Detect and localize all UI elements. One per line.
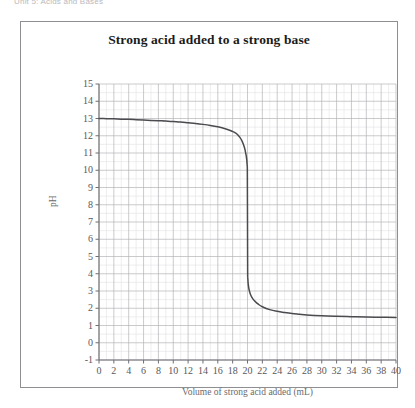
y-tick-label: 12 (67, 131, 93, 141)
y-tick-label: 13 (67, 114, 93, 124)
figure-frame: Strong acid added to a strong base -1012… (20, 21, 398, 388)
y-tick-label: 9 (67, 183, 93, 193)
y-tick-label: 15 (67, 79, 93, 89)
y-tick-label: 1 (67, 321, 93, 331)
axis-ticks (96, 84, 397, 364)
y-tick-label: 10 (67, 165, 93, 175)
page-header-fragment: Unit 5: Acids and Bases (14, 0, 274, 8)
y-axis-title: pH (48, 195, 58, 207)
chart-title: Strong acid added to a strong base (21, 32, 397, 48)
y-tick-label: 4 (67, 269, 93, 279)
y-tick-label: 2 (67, 303, 93, 313)
x-tick-label: 40 (384, 366, 408, 376)
y-tick-label: 6 (67, 234, 93, 244)
y-tick-label: -1 (67, 355, 93, 365)
y-tick-label: 8 (67, 200, 93, 210)
x-axis-title: Volume of strong acid added (mL) (99, 387, 396, 397)
y-tick-label: 3 (67, 286, 93, 296)
y-tick-label: 11 (67, 148, 93, 158)
y-tick-label: 5 (67, 252, 93, 262)
chart-page: Unit 5: Acids and Bases Strong acid adde… (0, 0, 415, 408)
y-tick-label: 0 (67, 338, 93, 348)
titration-curve-plot (99, 84, 396, 360)
y-tick-label: 14 (67, 96, 93, 106)
y-tick-label: 7 (67, 217, 93, 227)
plot-area: -10123456789101112131415 024681012141618… (99, 84, 396, 360)
